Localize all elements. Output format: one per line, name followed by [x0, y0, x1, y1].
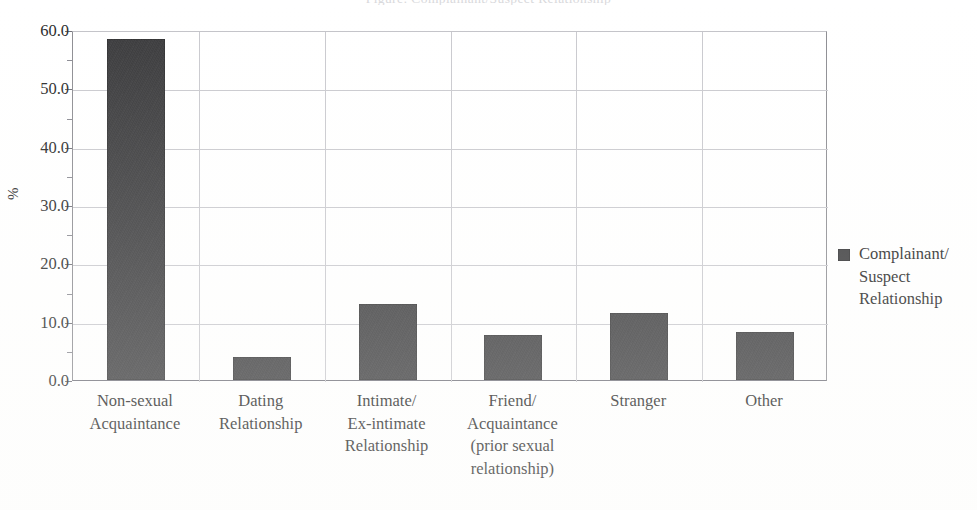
x-tick-label-line: Dating — [198, 390, 324, 413]
bar[interactable] — [359, 304, 417, 380]
y-tick-label: 40.0 — [40, 140, 69, 157]
x-tick-label: DatingRelationship — [198, 390, 324, 435]
legend[interactable]: Complainant/SuspectRelationship — [838, 243, 977, 311]
gridline-vertical — [325, 32, 326, 382]
bar[interactable] — [107, 39, 165, 380]
x-tick-label-line: Friend/ — [450, 390, 576, 413]
legend-swatch-icon — [838, 249, 850, 261]
x-tick-label-line: Non-sexual — [72, 390, 198, 413]
x-tick-label-line: Relationship — [198, 413, 324, 436]
legend-label-line: Suspect — [859, 266, 977, 289]
y-tick-label: 20.0 — [40, 256, 69, 273]
x-tick-label-line: (prior sexual — [450, 435, 576, 458]
bar[interactable] — [233, 357, 291, 380]
x-tick-label-line: Acquaintance — [72, 413, 198, 436]
bar[interactable] — [484, 335, 542, 381]
x-tick-label: Other — [701, 390, 827, 413]
legend-label: Complainant/SuspectRelationship — [859, 243, 977, 311]
x-tick-label-line: Other — [701, 390, 827, 413]
bar[interactable] — [610, 313, 668, 380]
gridline-vertical — [199, 32, 200, 382]
bar-chart: % 60.050.040.030.020.010.00.0 Non-sexual… — [0, 0, 977, 510]
x-tick-label: Stranger — [575, 390, 701, 413]
y-tick-label: 50.0 — [40, 81, 69, 98]
x-tick-label: Intimate/Ex-intimateRelationship — [324, 390, 450, 458]
y-tick-label: 0.0 — [48, 373, 69, 390]
y-tick-label: 30.0 — [40, 198, 69, 215]
x-tick-label-line: Stranger — [575, 390, 701, 413]
x-tick-label-line: Relationship — [324, 435, 450, 458]
gridline-vertical — [576, 32, 577, 382]
legend-label-line: Relationship — [859, 288, 977, 311]
x-tick-label: Non-sexualAcquaintance — [72, 390, 198, 435]
legend-label-line: Complainant/ — [859, 243, 977, 266]
x-tick-label-line: relationship) — [450, 458, 576, 481]
y-tick-label: 10.0 — [40, 315, 69, 332]
x-tick-label-line: Intimate/ — [324, 390, 450, 413]
gridline-vertical — [451, 32, 452, 382]
y-tick-label: 60.0 — [40, 23, 69, 40]
bar[interactable] — [736, 332, 794, 380]
plot-area — [72, 31, 827, 381]
gridline-vertical — [702, 32, 703, 382]
x-tick-label-line: Ex-intimate — [324, 413, 450, 436]
x-tick-label: Friend/Acquaintance(prior sexualrelation… — [450, 390, 576, 480]
x-tick-label-line: Acquaintance — [450, 413, 576, 436]
